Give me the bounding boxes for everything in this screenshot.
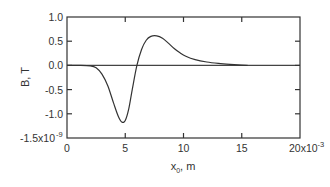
x-axis-title-suffix: , m	[180, 160, 195, 172]
x-tick-label: 0	[64, 142, 70, 154]
y-tick-label: 0.0	[48, 59, 63, 71]
x-tick-label: 20x10-3	[289, 140, 324, 154]
y-tick-label: 1.0	[48, 11, 63, 23]
y-tick-label: -1.0	[45, 108, 63, 120]
series-line-b	[67, 36, 248, 123]
x-axis-title: x0, m	[171, 160, 196, 174]
x-tick-label: 5	[122, 142, 128, 154]
chart: 05101520x10-31.00.50.0-0.5-1.0-1.5x10-9 …	[0, 0, 330, 187]
y-tick-exponent: -9	[56, 130, 63, 139]
x-tick-exponent: -3	[318, 140, 325, 149]
y-tick-label: 0.5	[48, 35, 63, 47]
y-tick-label: -0.5	[45, 84, 63, 96]
y-tick-label: -1.5x10	[20, 132, 55, 144]
y-axis-title: B, T	[19, 67, 31, 87]
x-tick-label: 15	[236, 142, 248, 154]
plot-frame	[67, 17, 300, 138]
x-tick-label: 10	[178, 142, 190, 154]
